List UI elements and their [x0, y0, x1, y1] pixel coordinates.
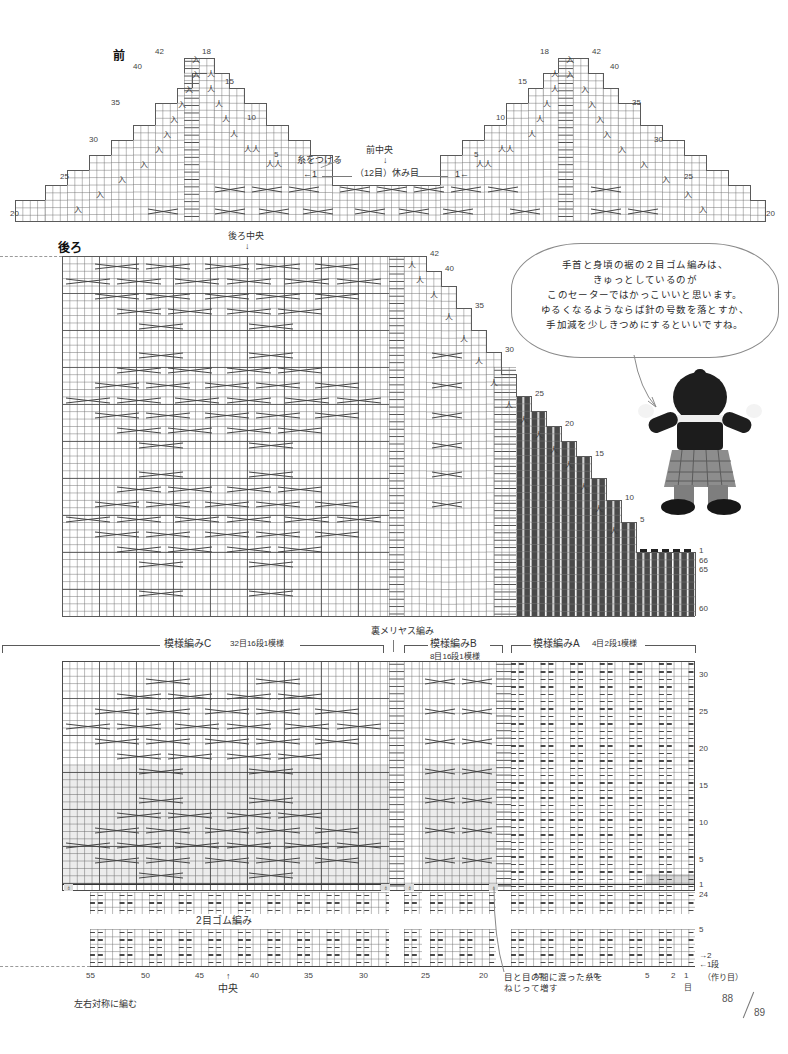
decrease-symbol: 人 [550, 447, 558, 454]
back-outline [591, 456, 592, 478]
back-row-number: 20 [565, 419, 574, 428]
back-purl-step [636, 552, 695, 616]
front-row-number-mirror: 42 [592, 47, 601, 56]
back-outline [516, 396, 531, 397]
back-outline [531, 396, 532, 411]
back-row-number: 42 [430, 249, 439, 258]
back-row-number: 1 [699, 546, 703, 555]
front-grid-step [440, 155, 462, 222]
decrease-symbol: 人 [460, 336, 468, 343]
decrease-symbol: 人 [215, 101, 223, 108]
front-outline [603, 88, 618, 89]
back-row-number: 60 [699, 604, 708, 613]
back-outline [516, 374, 517, 396]
decrease-symbol: 人 [536, 116, 544, 123]
front-outline [706, 170, 728, 171]
front-outline [111, 140, 112, 155]
band-tick [393, 640, 394, 652]
back-grid-step [441, 286, 456, 616]
page-number-right: 89 [754, 1007, 765, 1018]
back-outline [636, 522, 637, 552]
band-rule-a [645, 645, 695, 646]
stitch-axis-number: 20 [479, 971, 488, 980]
back-outline [62, 256, 63, 616]
rib-direction-down: ←1段 [699, 961, 719, 970]
decrease-symbol: 人 [252, 146, 260, 153]
decrease-symbol: 人 [484, 161, 492, 168]
body-chart-outline [62, 661, 695, 891]
front-outline-bottom [15, 221, 765, 222]
front-outline [528, 88, 543, 89]
back-purl-step [606, 500, 621, 616]
decrease-symbol: 入 [192, 71, 200, 78]
band-end-tick [511, 645, 512, 653]
front-outline [462, 140, 484, 141]
front-outline [706, 155, 707, 170]
front-grid-step [15, 200, 45, 222]
front-row-number: 5 [274, 150, 278, 159]
rib-row-upper-b [430, 892, 496, 914]
decrease-symbol: 人 [565, 462, 573, 469]
back-outline [636, 552, 695, 553]
back-outline [546, 426, 561, 427]
rib-dash-pattern [511, 892, 695, 914]
decrease-symbol: 入 [96, 191, 104, 198]
decrease-symbol: 入 [566, 71, 574, 78]
rib-row-upper [90, 892, 389, 914]
back-outline [486, 352, 501, 353]
rib-baseline-dash [0, 966, 90, 967]
back-row-number: 15 [595, 449, 604, 458]
front-grid-step [603, 88, 618, 222]
back-grid-step [471, 330, 486, 616]
front-chart-title: 前 [113, 46, 125, 63]
rib-dash-pattern [430, 929, 496, 966]
front-outline [440, 155, 441, 185]
back-outline [695, 552, 696, 616]
back-outline [576, 456, 591, 457]
band-rule-b [490, 645, 502, 646]
back-purl-step [576, 456, 591, 616]
front-outline [244, 88, 245, 103]
band-end-tick [404, 645, 405, 653]
front-grid-step [288, 140, 310, 222]
twisted-increase-symbol: ♁ [64, 884, 73, 891]
body-row-number: 25 [699, 707, 708, 716]
back-center-arrow: ↓ [245, 242, 250, 252]
front-grid-step [67, 170, 89, 222]
front-outline [618, 88, 619, 103]
decrease-symbol: 人 [207, 86, 215, 93]
back-purl-step [591, 478, 606, 616]
stitch-axis-number: 30 [359, 971, 368, 980]
front-grid-step [528, 88, 543, 222]
decrease-symbol: 人 [490, 380, 498, 387]
front-outline [728, 170, 729, 185]
front-outline [506, 103, 528, 104]
decrease-symbol: 人 [595, 506, 603, 513]
increase-note: 目と目の間に渡った糸を ねじって増す [504, 972, 603, 994]
decrease-symbol: 人 [430, 292, 438, 299]
front-outline [750, 200, 765, 201]
band-rule-a [511, 645, 531, 646]
decrease-symbol: 人 [551, 86, 559, 93]
front-grid-step [543, 73, 558, 222]
band-end-tick [383, 645, 384, 653]
back-grid-step [426, 271, 441, 616]
back-outline [591, 478, 606, 479]
twisted-increase-symbol: ♁ [405, 884, 414, 891]
back-outline [621, 500, 622, 522]
band-end-tick [502, 645, 503, 653]
decrease-symbol: 人 [528, 131, 536, 138]
front-outline [89, 155, 90, 170]
back-outline [606, 500, 621, 501]
decrease-symbol: 人 [520, 417, 528, 424]
decrease-symbol: 人 [505, 402, 513, 409]
decrease-symbol: 人 [543, 101, 551, 108]
front-right-arrow-mark: 1← [455, 170, 469, 180]
reverse-stockinette-label: 裏メリヤス編み [371, 627, 434, 637]
rib-dash-pattern [90, 929, 389, 966]
back-outline [561, 426, 562, 441]
decrease-symbol: 人 [475, 358, 483, 365]
decrease-symbol: 人 [244, 146, 252, 153]
rib-chart-title: 2目ゴム編み [196, 915, 252, 926]
front-outline [288, 140, 310, 141]
